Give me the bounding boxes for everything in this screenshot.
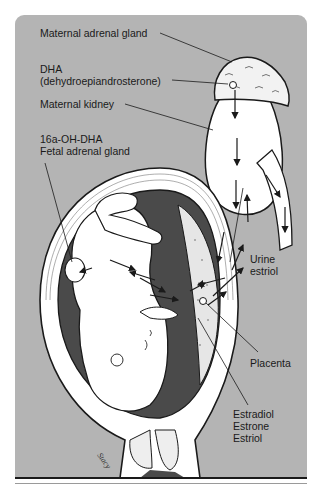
label-16a-oh-dha: 16a-OH-DHA	[40, 133, 102, 145]
label-estriol: Estriol	[233, 432, 262, 444]
label-maternal-kidney: Maternal kidney	[40, 98, 114, 110]
panel-bottom-border	[15, 477, 307, 479]
separator-line	[15, 483, 307, 484]
label-fetal-adrenal-gland: Fetal adrenal gland	[40, 145, 130, 157]
label-urine-estriol: estriol	[250, 265, 278, 277]
label-placenta: Placenta	[250, 357, 291, 369]
label-maternal-adrenal-gland: Maternal adrenal gland	[40, 27, 147, 39]
label-dha-full: (dehydroepiandrosterone)	[40, 75, 161, 87]
fetal-adrenal-gland-shape	[65, 258, 85, 282]
label-estradiol: Estradiol	[233, 408, 274, 420]
label-dha: DHA	[40, 63, 62, 75]
label-urine: Urine	[250, 253, 275, 265]
label-estrone: Estrone	[233, 420, 269, 432]
maternal-adrenal-gland-shape	[214, 57, 289, 106]
svg-text:Stacy: Stacy	[95, 451, 113, 471]
